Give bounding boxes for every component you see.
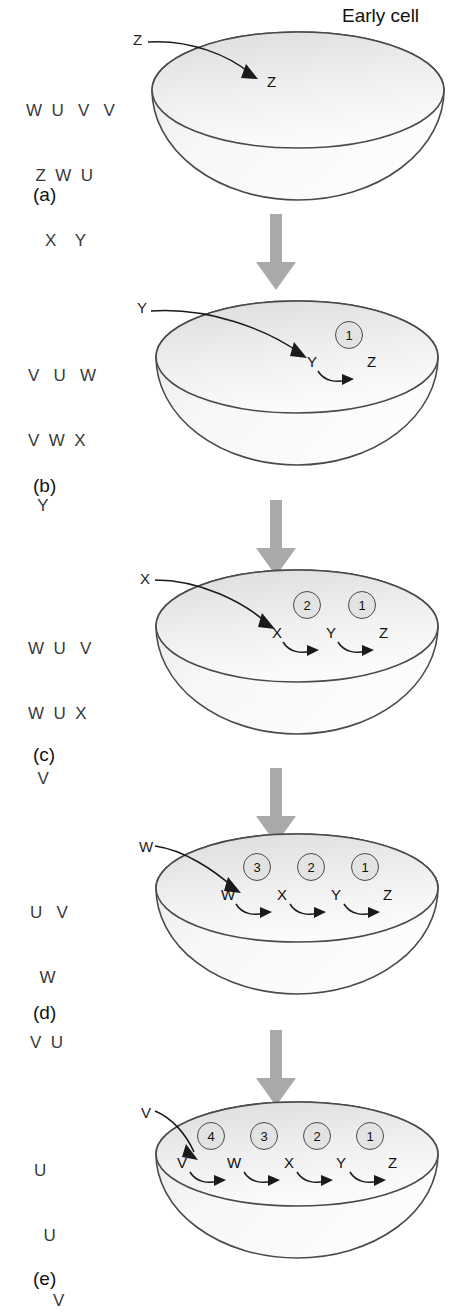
enzyme-circle-2-c: 2 — [293, 591, 321, 619]
external-row: V — [34, 1292, 64, 1309]
panel-label-e: (e) — [33, 1268, 56, 1290]
source-substrate-label-b: Y — [137, 299, 147, 316]
import-arrow-a — [145, 34, 305, 104]
external-row: Z W U — [26, 167, 115, 184]
reaction-arrow-wx-e — [242, 1168, 284, 1192]
external-substrates-a: W U V V Z W U X Y — [26, 62, 115, 289]
metabolite-z-a: Z — [267, 73, 276, 90]
external-row: U — [34, 1227, 64, 1244]
enzyme-circle-2-e: 2 — [303, 1122, 331, 1150]
external-row: V U W — [28, 367, 96, 384]
external-row: V U — [30, 1034, 68, 1051]
panel-b: V U W V W X Y Y Y 1 Z (b) — [0, 287, 464, 520]
metabolite-z-d: Z — [383, 886, 392, 903]
progression-arrow-a-to-b — [248, 214, 304, 292]
source-substrate-label-c: X — [140, 570, 150, 587]
reaction-arrow-xy-d — [288, 900, 330, 924]
early-cell-label: Early cell — [342, 5, 419, 27]
panel-label-a: (a) — [33, 184, 56, 206]
external-row: W U V — [28, 640, 91, 657]
metabolite-z-b: Z — [367, 353, 376, 370]
metabolite-y-c: Y — [326, 624, 336, 641]
panel-c: W U V W U X V X X 2 Y 1 Z (c) — [0, 558, 464, 790]
external-row: V — [28, 770, 91, 787]
external-row: V W X — [28, 432, 96, 449]
external-row: U V — [30, 904, 68, 921]
panel-e: U U V V V 4 W 3 X 2 Y 1 Z (e) — [0, 1090, 464, 1312]
enzyme-circle-1-b: 1 — [335, 321, 363, 349]
metabolite-x-e: X — [284, 1154, 294, 1171]
enzyme-circle-3-d: 3 — [243, 853, 271, 881]
enzyme-circle-3-e: 3 — [250, 1122, 278, 1150]
reaction-arrow-yz-e — [348, 1168, 390, 1192]
panel-label-c: (c) — [33, 744, 55, 766]
panel-a: Early cell W U V V Z W U X Y Z Z (a) — [0, 0, 464, 230]
reaction-arrow-wx-d — [234, 900, 276, 924]
enzyme-circle-1-e: 1 — [356, 1122, 384, 1150]
metabolite-w-e: W — [227, 1154, 241, 1171]
external-row: X Y — [26, 232, 115, 249]
metabolite-z-c: Z — [379, 624, 388, 641]
external-substrates-d: U V W V U — [30, 864, 68, 1091]
external-row: Y — [28, 497, 96, 514]
external-row: U — [34, 1162, 64, 1179]
enzyme-circle-2-d: 2 — [297, 853, 325, 881]
reaction-arrow-xy-c — [281, 638, 323, 662]
source-substrate-label-a: Z — [133, 31, 142, 48]
metabolite-y-d: Y — [331, 886, 341, 903]
external-row: W — [30, 969, 68, 986]
enzyme-circle-1-d: 1 — [351, 853, 379, 881]
external-substrates-b: V U W V W X Y — [28, 327, 96, 554]
panel-label-d: (d) — [33, 1002, 56, 1024]
reaction-arrow-yz-d — [342, 900, 384, 924]
reaction-arrow-vw-e — [188, 1168, 230, 1192]
panel-d: U V W V U W W 3 X 2 Y 1 Z (d) — [0, 822, 464, 1050]
source-substrate-label-e: V — [141, 1104, 151, 1121]
metabolite-z-e: Z — [388, 1154, 397, 1171]
external-substrates-c: W U V W U X V — [28, 600, 91, 827]
external-row: W U X — [28, 705, 91, 722]
panel-label-b: (b) — [33, 475, 56, 497]
metabolite-v-e: V — [177, 1154, 187, 1171]
enzyme-circle-4-e: 4 — [197, 1122, 225, 1150]
metabolite-y-e: Y — [336, 1154, 346, 1171]
external-row: W U V V — [26, 102, 115, 119]
enzyme-circle-1-c: 1 — [348, 591, 376, 619]
reaction-arrow-yz-b — [316, 367, 358, 391]
reaction-arrow-yz-c — [336, 638, 378, 662]
reaction-arrow-xy-e — [295, 1168, 337, 1192]
metabolite-x-d: X — [277, 886, 287, 903]
